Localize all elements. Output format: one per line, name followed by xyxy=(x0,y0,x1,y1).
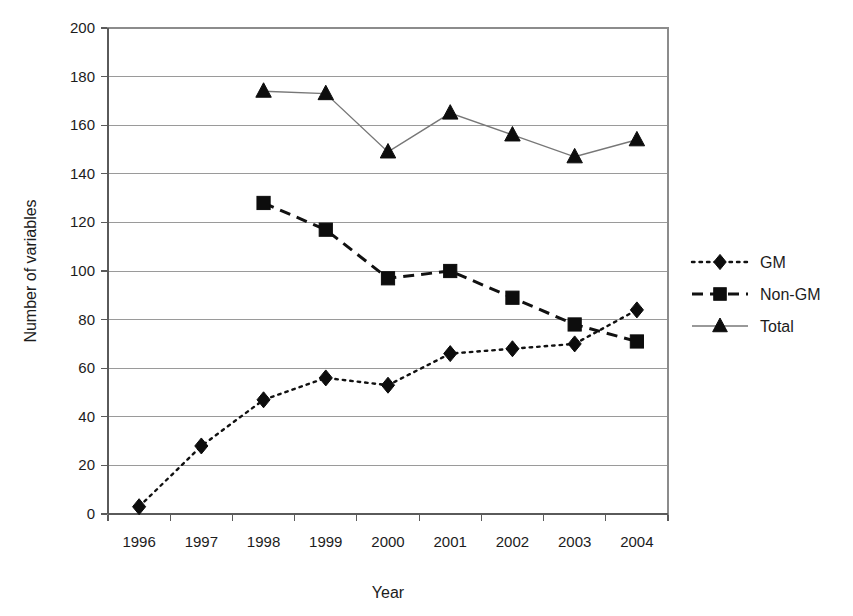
x-tick-label: 2003 xyxy=(558,533,591,550)
legend-label-non-gm: Non-GM xyxy=(760,286,820,303)
x-tick-label: 2001 xyxy=(434,533,467,550)
chart-page: 020406080100120140160180200 199619971998… xyxy=(0,0,853,616)
line-chart: 020406080100120140160180200 199619971998… xyxy=(0,0,853,616)
y-tick-label: 80 xyxy=(78,311,95,328)
legend-label-gm: GM xyxy=(760,254,786,271)
data-point-total-2004 xyxy=(629,131,644,145)
legend-marker-gm xyxy=(714,254,726,269)
y-tick-label: 60 xyxy=(78,359,95,376)
gridlines-group xyxy=(108,28,668,514)
data-point-non-gm-2001 xyxy=(444,264,457,277)
y-tick-label: 20 xyxy=(78,456,95,473)
series-line-total xyxy=(264,91,637,157)
x-axis-title: Year xyxy=(372,584,405,601)
data-point-total-1998 xyxy=(256,83,271,97)
data-point-non-gm-2000 xyxy=(381,272,394,285)
legend-marker-total xyxy=(713,318,728,332)
legend-label-total: Total xyxy=(760,318,794,335)
data-point-gm-2002 xyxy=(506,341,519,357)
data-point-non-gm-1998 xyxy=(257,196,270,209)
series-line-gm xyxy=(139,310,637,507)
x-tick-labels: 199619971998199920002001200220032004 xyxy=(122,533,653,550)
y-tick-label: 140 xyxy=(70,165,95,182)
data-point-gm-2001 xyxy=(444,346,457,362)
y-axis-title: Number of variables xyxy=(22,199,39,342)
data-point-gm-2004 xyxy=(630,302,643,318)
x-tick-label: 2002 xyxy=(496,533,529,550)
x-tick-label: 1998 xyxy=(247,533,280,550)
y-tick-label: 0 xyxy=(87,505,95,522)
y-tick-labels: 020406080100120140160180200 xyxy=(70,19,95,522)
legend-marker-non-gm xyxy=(714,288,727,301)
data-point-non-gm-2004 xyxy=(630,335,643,348)
data-point-total-2001 xyxy=(442,105,457,119)
data-point-non-gm-2002 xyxy=(506,291,519,304)
x-tick-label: 1997 xyxy=(185,533,218,550)
data-point-non-gm-2003 xyxy=(568,318,581,331)
data-point-gm-2000 xyxy=(381,377,394,393)
chart-legend: GMNon-GMTotal xyxy=(692,254,820,335)
data-point-gm-1997 xyxy=(195,438,208,454)
data-point-gm-1999 xyxy=(319,370,332,386)
series-markers-group xyxy=(133,83,645,515)
y-tick-label: 200 xyxy=(70,19,95,36)
y-tick-label: 100 xyxy=(70,262,95,279)
x-tick-label: 1996 xyxy=(122,533,155,550)
data-point-gm-2003 xyxy=(568,336,581,352)
data-point-total-1999 xyxy=(318,85,333,99)
y-tick-label: 120 xyxy=(70,213,95,230)
data-point-total-2000 xyxy=(380,144,395,158)
data-point-gm-1998 xyxy=(257,392,270,408)
y-tick-label: 160 xyxy=(70,116,95,133)
y-tick-label: 40 xyxy=(78,408,95,425)
x-tick-label: 2004 xyxy=(620,533,653,550)
data-point-non-gm-1999 xyxy=(319,223,332,236)
y-tick-label: 180 xyxy=(70,68,95,85)
x-tick-label: 1999 xyxy=(309,533,342,550)
x-tick-label: 2000 xyxy=(371,533,404,550)
